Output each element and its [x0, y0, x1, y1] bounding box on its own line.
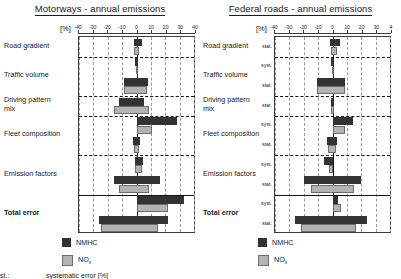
gridline-10 — [347, 37, 348, 232]
chart-panel-federal-roads: Federal roads - annual emissions [%] -40… — [200, 0, 401, 276]
x-axis-tick-labels-right: -40-30-20-1001020304 — [200, 24, 401, 34]
x-tickmark-30 — [180, 30, 181, 33]
legend-swatch-nox — [258, 255, 269, 266]
error-type-label-syst: syst. — [261, 200, 272, 206]
plot-area-motorways — [78, 36, 195, 233]
bar-nmhc — [304, 176, 362, 184]
footnote-text: systematic error [%] — [46, 272, 108, 279]
error-type-label-stat: stat. — [262, 220, 272, 226]
x-tickmark-10 — [151, 30, 152, 33]
footnote-key: st.: — [0, 272, 46, 279]
category-label-traffic-volume: Traffic volume — [203, 71, 248, 80]
bar-nmhc — [331, 58, 333, 66]
x-tickmark-40 — [391, 30, 392, 33]
x-tickmark-0 — [137, 30, 138, 33]
gridline--40 — [79, 37, 80, 232]
gridline-40 — [194, 37, 195, 232]
bar-nmhc — [324, 157, 333, 165]
gridline--30 — [93, 37, 94, 232]
footnote: st.:systematic error [%] — [0, 272, 108, 279]
error-type-label-stat: stat. — [262, 181, 272, 187]
bar-nox — [136, 67, 138, 75]
x-tickmark--30 — [93, 30, 94, 33]
x-tickmark--10 — [122, 30, 123, 33]
x-axis-rule — [274, 33, 391, 34]
category-label-fleet-composition: Fleet composition — [4, 130, 60, 139]
legend-swatch-nox — [62, 255, 73, 266]
error-type-label-syst: syst. — [261, 121, 272, 127]
bar-nox — [114, 106, 150, 114]
error-type-label-stat: stat. — [262, 43, 272, 49]
x-tickmark-30 — [376, 30, 377, 33]
bar-nox — [333, 204, 342, 212]
gridline-40 — [390, 37, 391, 232]
legend-swatch-nmhc — [62, 238, 71, 247]
category-label-road-gradient: Road gradient — [203, 42, 248, 51]
bar-nox — [329, 165, 333, 173]
x-tickmark-20 — [362, 30, 363, 33]
legend-label-nmhc: NMHC — [272, 238, 294, 247]
bar-nmhc — [333, 196, 339, 204]
x-tickmark-40 — [195, 30, 196, 33]
bar-nox — [331, 106, 333, 114]
x-tickmark--40 — [274, 30, 275, 33]
category-label-driving-pattern-mix: Driving pattern mix — [203, 96, 250, 113]
legend-item-nmhc: NMHC — [258, 238, 294, 247]
chart-panel-motorways: Motorways - annual emissions [%] -40-30-… — [0, 0, 200, 276]
bar-nmhc — [137, 196, 184, 204]
category-label-fleet-composition: Fleet composition — [203, 130, 259, 139]
gridline--40 — [275, 37, 276, 232]
gridline--20 — [108, 37, 109, 232]
bar-nmhc — [133, 137, 140, 145]
bar-nmhc — [114, 176, 160, 184]
bar-nmhc — [317, 78, 346, 86]
category-label-total-error: Total error — [4, 209, 39, 218]
legend-label-nmhc: NMHC — [76, 238, 98, 247]
x-tickmark-20 — [166, 30, 167, 33]
bar-nox — [135, 165, 141, 173]
x-tickmark-0 — [333, 30, 334, 33]
x-tickmark--10 — [318, 30, 319, 33]
bar-nmhc — [134, 39, 143, 47]
x-tickmark-10 — [347, 30, 348, 33]
bar-nmhc — [333, 117, 353, 125]
bar-nox — [332, 67, 334, 75]
category-label-traffic-volume: Traffic volume — [4, 71, 49, 80]
bar-nox — [331, 47, 337, 55]
legend-item-nmhc: NMHC — [62, 238, 98, 247]
category-label-driving-pattern-mix: Driving pattern mix — [4, 96, 51, 113]
x-tickmark--40 — [78, 30, 79, 33]
bar-nox — [124, 86, 147, 94]
x-axis-rule — [78, 33, 195, 34]
error-type-label-syst: syst. — [261, 62, 272, 68]
gridline-30 — [376, 37, 377, 232]
legend-swatch-nmhc — [258, 238, 267, 247]
bar-nmhc — [327, 137, 337, 145]
bar-nox — [134, 145, 138, 153]
bar-nox — [119, 185, 149, 193]
bar-nox — [101, 224, 159, 232]
error-type-label-stat: stat. — [262, 102, 272, 108]
bar-nmhc — [135, 58, 137, 66]
bar-nox — [134, 47, 139, 55]
legend-label-nox: NOx — [78, 255, 91, 265]
gridline--10 — [318, 37, 319, 232]
legend-item-nox: NOx — [62, 255, 91, 266]
x-axis-tick-labels-left: -40-30-20-10010203040 — [0, 24, 200, 34]
gridline--10 — [122, 37, 123, 232]
gridline-20 — [361, 37, 362, 232]
error-type-label-stat: stat. — [262, 141, 272, 147]
x-tickmark--20 — [107, 30, 108, 33]
bar-nmhc — [330, 39, 339, 47]
bar-nmhc — [99, 216, 168, 224]
bar-nmhc — [331, 98, 334, 106]
legend-label-nox: NOx — [274, 255, 287, 265]
category-label-emission-factors: Emission factors — [203, 170, 256, 179]
bar-nox — [333, 126, 346, 134]
chart-title-federal-roads: Federal roads - annual emissions — [200, 3, 401, 14]
error-type-label-syst: syst. — [261, 161, 272, 167]
chart-title-motorways: Motorways - annual emissions — [0, 3, 200, 14]
category-label-emission-factors: Emission factors — [4, 170, 57, 179]
legend-label-subscript: x — [285, 260, 288, 266]
x-tickmark--30 — [289, 30, 290, 33]
